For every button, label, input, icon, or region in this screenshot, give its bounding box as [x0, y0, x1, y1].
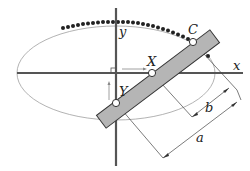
label-x-axis: x — [233, 58, 241, 73]
label-y-axis: y — [118, 24, 127, 39]
trammel-diagram: y x C X Y b a — [0, 0, 250, 171]
point-y — [112, 99, 119, 106]
label-dimension-b: b — [205, 100, 213, 115]
label-point-c: C — [188, 22, 198, 37]
label-point-x: X — [146, 54, 157, 69]
label-point-y: Y — [119, 84, 129, 99]
label-dimension-a: a — [196, 130, 204, 145]
y-motion-arrowhead — [108, 81, 111, 85]
point-x — [148, 69, 155, 76]
point-c — [189, 38, 196, 45]
dimension-arrowheads — [163, 88, 237, 158]
